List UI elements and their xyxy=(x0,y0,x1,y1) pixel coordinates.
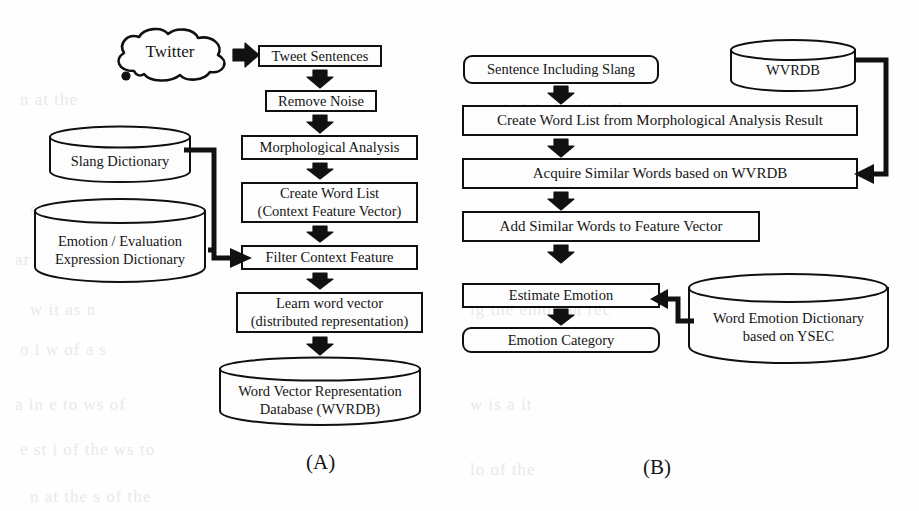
panel-b: Sentence Including Slang Create Word Lis… xyxy=(0,0,919,511)
step-acquire-similar-words-label: Acquire Similar Words based on WVRDB xyxy=(533,165,787,182)
db-word-emotion-dictionary: Word Emotion Dictionary based on YSEC xyxy=(687,272,890,365)
step-add-similar-words[interactable]: Add Similar Words to Feature Vector xyxy=(462,211,760,242)
step-add-similar-words-label: Add Similar Words to Feature Vector xyxy=(500,218,723,235)
arrow-acquire-to-add-similar-words xyxy=(547,191,575,211)
arrow-estimate-to-emotion-category xyxy=(547,308,575,326)
arrow-create-word-list-to-acquire xyxy=(547,138,575,158)
arrow-sentence-to-create-word-list xyxy=(547,85,575,105)
twitter-cloud-label: Twitter xyxy=(106,42,234,62)
connector-wvrdb-to-acquire xyxy=(848,54,908,189)
step-sentence-including-slang-label: Sentence Including Slang xyxy=(487,61,635,77)
step-estimate-emotion[interactable]: Estimate Emotion xyxy=(462,283,660,308)
arrow-add-similar-to-estimate-emotion xyxy=(547,244,575,264)
db-wvrdb-input: WVRDB xyxy=(729,38,857,92)
step-emotion-category-label: Emotion Category xyxy=(508,332,615,348)
figure-canvas: n at thea st in W, the distributionsec t… xyxy=(0,0,919,511)
step-sentence-including-slang[interactable]: Sentence Including Slang xyxy=(463,55,659,84)
step-estimate-emotion-label: Estimate Emotion xyxy=(509,287,613,303)
panel-b-caption: (B) xyxy=(643,455,671,480)
step-create-word-list-from-ma-label: Create Word List from Morphological Anal… xyxy=(497,112,823,129)
step-acquire-similar-words[interactable]: Acquire Similar Words based on WVRDB xyxy=(462,158,858,189)
step-emotion-category[interactable]: Emotion Category xyxy=(462,327,660,353)
step-create-word-list-from-ma[interactable]: Create Word List from Morphological Anal… xyxy=(462,105,858,136)
connector-word-emotion-dictionary-to-estimate xyxy=(648,285,704,333)
